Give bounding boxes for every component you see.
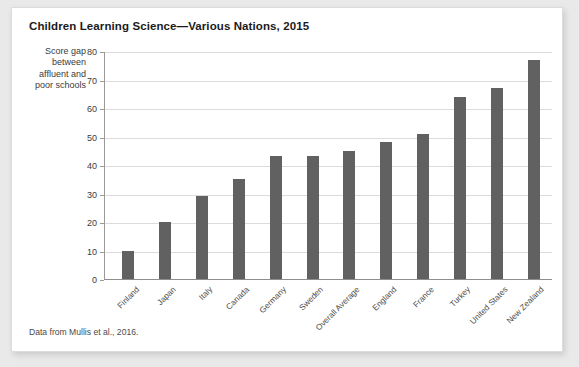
source-note: Data from Mullis et al., 2016.: [29, 327, 138, 337]
y-tick: 70: [104, 81, 105, 82]
figure-card: Children Learning Science—Various Nation…: [11, 7, 563, 352]
y-tick: 60: [104, 109, 105, 110]
x-tick: France: [428, 285, 429, 286]
y-tick-mark: [100, 166, 104, 167]
x-tick-label: New Zealand: [505, 285, 545, 325]
gridline: [104, 166, 552, 167]
x-tick-label: Japan: [155, 285, 177, 307]
gridline: [104, 81, 552, 82]
bar: [454, 97, 466, 279]
y-tick: 40: [104, 166, 105, 167]
y-tick-mark: [100, 280, 104, 281]
bar: [307, 156, 319, 279]
y-tick: 50: [104, 138, 105, 139]
y-tick-label: 30: [87, 190, 97, 200]
x-tick-label: Canada: [225, 285, 252, 312]
y-axis-label: Score gap between affluent and poor scho…: [14, 46, 86, 92]
y-tick: 80: [104, 52, 105, 53]
y-axis-label-line-4: poor schools: [14, 80, 86, 91]
y-tick-mark: [100, 81, 104, 82]
y-tick-label: 60: [87, 104, 97, 114]
gridline: [104, 138, 552, 139]
y-axis-label-line-3: affluent and: [14, 69, 86, 80]
y-tick-mark: [100, 195, 104, 196]
y-tick-mark: [100, 223, 104, 224]
bar: [233, 179, 245, 279]
bar: [122, 251, 134, 280]
y-tick-label: 20: [87, 218, 97, 228]
x-tick: United States: [502, 285, 503, 286]
bar: [159, 222, 171, 279]
gridline: [104, 52, 552, 53]
x-axis-line: [104, 279, 552, 280]
x-tick: New Zealand: [539, 285, 540, 286]
bar: [343, 151, 355, 279]
x-tick: Sweden: [318, 285, 319, 286]
x-tick: Germany: [281, 285, 282, 286]
bar: [417, 134, 429, 279]
y-tick: 10: [104, 252, 105, 253]
y-tick-mark: [100, 138, 104, 139]
y-tick-label: 10: [87, 247, 97, 257]
plot-inner: 01020304050607080 FinlandJapanItalyCanad…: [104, 52, 552, 280]
bar: [491, 88, 503, 279]
x-tick-label: Sweden: [298, 285, 325, 312]
y-tick-mark: [100, 109, 104, 110]
plot-area: 01020304050607080 FinlandJapanItalyCanad…: [104, 52, 552, 280]
bar: [380, 142, 392, 279]
y-axis-label-line-2: between: [14, 57, 86, 68]
x-tick: Italy: [207, 285, 208, 286]
y-axis-label-line-1: Score gap: [14, 46, 86, 57]
y-tick-label: 50: [87, 133, 97, 143]
bar: [270, 156, 282, 279]
x-tick-label: Germany: [258, 285, 288, 315]
y-tick-label: 70: [87, 76, 97, 86]
y-tick-label: 0: [92, 275, 97, 285]
y-tick-label: 40: [87, 161, 97, 171]
x-tick: Finland: [133, 285, 134, 286]
x-tick: Japan: [170, 285, 171, 286]
x-tick-label: Italy: [197, 285, 214, 302]
y-tick-mark: [100, 52, 104, 53]
bar: [528, 60, 540, 279]
x-tick-label: United States: [468, 285, 509, 326]
x-tick-label: France: [411, 285, 435, 309]
x-tick-label: Finland: [115, 285, 140, 310]
y-tick-label: 80: [87, 47, 97, 57]
x-tick-label: Turkey: [448, 285, 472, 309]
x-tick: Turkey: [465, 285, 466, 286]
x-tick-label: England: [371, 285, 399, 313]
y-tick: 0: [104, 280, 105, 281]
x-tick: Canada: [244, 285, 245, 286]
y-tick: 30: [104, 195, 105, 196]
gridline: [104, 195, 552, 196]
gridline: [104, 109, 552, 110]
y-tick-mark: [100, 252, 104, 253]
bar: [196, 196, 208, 279]
x-tick: Overall Average: [354, 285, 355, 286]
chart-title: Children Learning Science—Various Nation…: [29, 20, 309, 32]
x-tick: England: [391, 285, 392, 286]
y-tick: 20: [104, 223, 105, 224]
